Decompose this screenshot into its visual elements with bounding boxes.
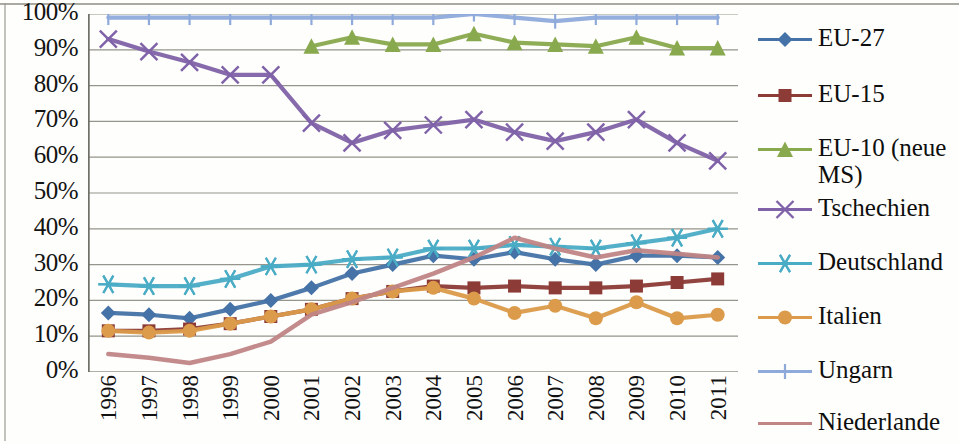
legend-item-eu-10-neue-ms[interactable]: EU-10 (neue MS) (756, 134, 946, 188)
data-point-marker (775, 255, 795, 272)
legend-item-niederlande[interactable]: Niederlande (756, 408, 940, 436)
data-point-marker (667, 229, 687, 246)
data-point-marker (345, 266, 360, 281)
data-point-marker (508, 280, 521, 293)
legend-item-deutschland[interactable]: Deutschland (756, 248, 943, 276)
chart-legend: EU-27EU-15EU-10 (neue MS)TschechienDeuts… (756, 8, 956, 438)
series-ungarn (108, 14, 717, 29)
y-axis-labels: 100%90%80%70%60%50%40%30%20%10%0% (0, 0, 86, 443)
data-point-marker (669, 134, 686, 151)
plot-area (88, 14, 738, 372)
legend-marker-glyph (770, 250, 800, 276)
data-point-marker (778, 311, 792, 325)
data-point-marker (304, 280, 319, 295)
y-axis-tick-label: 10% (34, 321, 78, 346)
legend-marker-glyph (770, 136, 800, 162)
x-axis-tick-label: 2011 (706, 375, 732, 420)
data-point-marker (549, 281, 562, 294)
data-point-marker (711, 272, 724, 285)
data-point-marker (142, 326, 156, 340)
legend-item-ungarn[interactable]: Ungarn (756, 356, 893, 384)
data-point-marker (141, 307, 156, 322)
legend-marker-glyph (770, 196, 800, 222)
chart-container: 100%90%80%70%60%50%40%30%20%10%0% 199619… (0, 0, 959, 443)
x-axis-tick-label: 2008 (584, 375, 610, 421)
data-point-marker (708, 220, 728, 237)
data-point-marker (264, 310, 278, 324)
legend-label: EU-27 (818, 24, 885, 51)
data-point-marker (777, 201, 794, 218)
legend-label: Deutschland (818, 248, 943, 275)
data-point-marker (629, 295, 643, 309)
x-axis-tick-label: 2007 (543, 375, 569, 421)
data-point-marker (98, 276, 118, 293)
y-axis-tick-label: 40% (34, 214, 78, 239)
legend-marker-triangle-icon (756, 136, 814, 162)
x-axis-tick-label: 2005 (462, 375, 488, 421)
series-line (108, 14, 717, 21)
legend-label: EU-15 (818, 80, 885, 107)
x-axis-tick-label: 2003 (381, 375, 407, 421)
data-point-marker (548, 299, 562, 313)
data-point-marker (711, 308, 725, 322)
data-point-marker (183, 324, 197, 338)
legend-marker-glyph (770, 358, 800, 384)
data-point-marker (180, 277, 200, 294)
data-point-marker (261, 258, 281, 275)
legend-label: Ungarn (818, 356, 893, 383)
data-point-marker (342, 251, 362, 268)
data-point-marker (709, 152, 726, 169)
legend-label: Niederlande (818, 408, 940, 435)
x-axis-tick-label: 1998 (178, 375, 204, 421)
x-axis-tick-label: 1996 (96, 375, 122, 421)
x-axis-tick-label: 2004 (421, 375, 447, 421)
series-line (108, 39, 717, 161)
x-axis-tick-label: 1997 (137, 375, 163, 421)
data-point-marker (670, 311, 684, 325)
x-axis-tick-label: 2002 (340, 375, 366, 421)
legend-item-tschechien[interactable]: Tschechien (756, 194, 930, 222)
data-point-marker (467, 292, 481, 306)
y-axis-tick-label: 70% (34, 106, 78, 131)
legend-label: Tschechien (818, 194, 930, 221)
x-axis-tick-label: 2006 (503, 375, 529, 421)
legend-marker-square-icon (756, 82, 814, 108)
x-axis-tick-label: 2000 (259, 375, 285, 421)
data-point-marker (630, 280, 643, 293)
legend-marker-asterisk-icon (756, 250, 814, 276)
x-axis-tick-label: 2001 (299, 375, 325, 421)
legend-marker-plus-icon (756, 358, 814, 384)
legend-item-italien[interactable]: Italien (756, 302, 882, 330)
legend-item-eu-27[interactable]: EU-27 (756, 24, 885, 52)
data-point-marker (301, 256, 321, 273)
legend-marker-glyph (770, 82, 800, 108)
y-axis-tick-label: 20% (34, 285, 78, 310)
legend-marker-glyph (770, 410, 800, 436)
data-point-marker (778, 32, 793, 47)
legend-marker-diamond-icon (756, 26, 814, 52)
data-point-marker (101, 305, 116, 320)
data-point-marker (779, 89, 792, 102)
series-tschechien (100, 31, 726, 170)
data-point-marker (220, 270, 240, 287)
y-axis-tick-label: 60% (34, 142, 78, 167)
data-point-marker (223, 302, 238, 317)
legend-label: EU-10 (neue MS) (818, 134, 946, 188)
data-point-marker (101, 324, 115, 338)
series-eu-10-neue-ms (303, 26, 725, 56)
data-point-marker (303, 115, 320, 132)
y-axis-tick-label: 100% (22, 0, 78, 24)
data-point-marker (589, 281, 602, 294)
y-axis-tick-label: 80% (34, 71, 78, 96)
legend-marker-circle-icon (756, 304, 814, 330)
data-point-marker (777, 142, 793, 158)
legend-item-eu-15[interactable]: EU-15 (756, 80, 885, 108)
y-axis-tick-label: 0% (46, 357, 78, 382)
data-point-marker (508, 306, 522, 320)
y-axis-tick-label: 30% (34, 250, 78, 275)
x-axis-tick-label: 1999 (218, 375, 244, 421)
legend-marker-none-icon (756, 410, 814, 436)
x-axis-tick-label: 2009 (624, 375, 650, 421)
data-point-marker (139, 277, 159, 294)
plot-svg (88, 14, 738, 372)
